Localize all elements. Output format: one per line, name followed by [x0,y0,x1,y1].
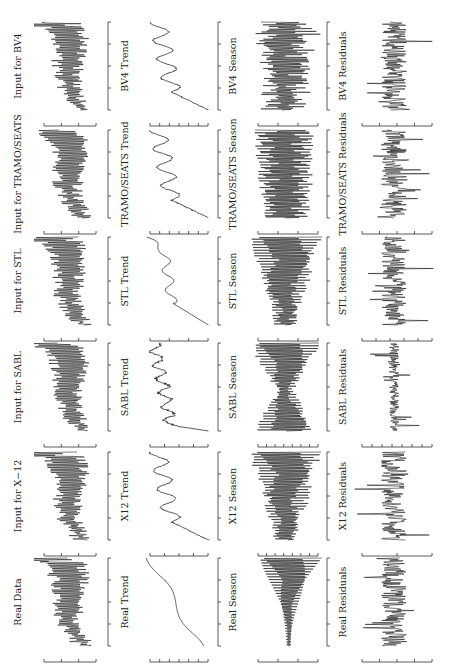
panel-input-for-tramo-seats: Input for TRAMO/SEATS [12,114,112,234]
series-line [370,343,419,431]
series-line [34,343,89,431]
panel-title: SABL Trend [119,358,130,416]
series-line [261,558,322,646]
panel-stl-season: STL Season [227,237,331,341]
panel-x12-season: X12 Season [227,452,331,556]
value-axis [258,231,318,234]
panel-title: STL Residuals [337,247,348,316]
panel-real-season: Real Season [227,558,331,662]
series-line [149,130,208,218]
panel-grid: Input for BV4BV4 TrendBV4 SeasonBV4 Resi… [12,22,434,662]
series-line [355,452,430,540]
panel-input-for-x-12: Input for X−12 [12,452,112,556]
panel-title: Real Data [12,578,23,626]
panel-title: X12 Trend [119,471,130,522]
decomposition-figure: Input for BV4BV4 TrendBV4 SeasonBV4 Resi… [0,0,450,666]
series-line [256,343,320,431]
panel-title: X12 Residuals [337,462,348,530]
panel-title: STL Season [227,253,238,310]
time-axis [327,237,330,325]
value-axis [362,338,432,341]
panel-title: BV4 Trend [119,40,130,92]
value-axis [44,123,96,126]
time-axis [218,130,221,218]
time-axis [218,343,221,431]
panel-bv4-trend: BV4 Trend [119,22,222,126]
time-axis [108,237,111,325]
value-axis [258,553,318,556]
panel-real-data: Real Data [12,558,112,662]
series-line [373,130,429,218]
value-axis [150,659,208,662]
value-axis [362,123,432,126]
panel-x12-trend: X12 Trend [119,452,222,556]
series-line [34,22,89,110]
panel-title: SABL Residuals [337,349,348,425]
time-axis [327,22,330,110]
value-axis [258,444,318,447]
value-axis [44,444,96,447]
value-axis [258,659,318,662]
value-axis [150,338,208,341]
panel-title: TRAMO/SEATS Trend [119,121,130,226]
panel-real-residuals: Real Residuals [337,558,433,662]
panel-title: BV4 Season [227,37,238,94]
time-axis [218,452,221,540]
panel-title: Input for BV4 [12,33,23,99]
panel-real-trend: Real Trend [119,558,222,662]
value-axis [362,444,432,447]
time-axis [108,22,111,110]
time-axis [327,558,330,646]
value-axis [150,123,208,126]
time-axis [108,558,111,646]
time-axis [327,452,330,540]
value-axis [362,659,432,662]
panel-tramo-seats-residuals: TRAMO/SEATS Residuals [337,112,433,235]
value-axis [258,338,318,341]
value-axis [44,659,96,662]
value-axis [44,553,96,556]
time-axis [108,130,111,218]
panel-title: Input for TRAMO/SEATS [12,114,23,233]
panel-stl-residuals: STL Residuals [337,237,434,341]
value-axis [362,231,432,234]
panel-title: Real Season [227,572,238,631]
series-line [34,558,91,646]
value-axis [150,444,208,447]
time-axis [327,343,330,431]
panel-sabl-residuals: SABL Residuals [337,343,433,447]
series-line [146,558,204,646]
panel-bv4-season: BV4 Season [227,22,331,126]
value-axis [362,553,432,556]
value-axis [44,338,96,341]
series-line [363,558,414,646]
time-axis [218,22,221,110]
panel-tramo-seats-trend: TRAMO/SEATS Trend [119,121,222,234]
series-line [252,452,321,540]
panel-sabl-trend: SABL Trend [119,343,222,447]
value-axis [150,231,208,234]
series-line [368,237,433,325]
series-line [150,22,208,110]
series-line [34,452,89,540]
panel-title: Real Trend [119,575,130,628]
series-line [39,130,91,218]
series-line [149,452,209,540]
time-axis [108,343,111,431]
panel-input-for-stl: Input for STL [12,237,112,341]
panel-x12-residuals: X12 Residuals [337,452,433,556]
panel-sabl-season: SABL Season [227,343,331,447]
series-line [367,22,432,110]
panel-title: Input for STL [12,248,23,314]
panel-title: TRAMO/SEATS Season [227,118,238,229]
value-axis [44,231,96,234]
value-axis [258,123,318,126]
time-axis [218,558,221,646]
time-axis [108,452,111,540]
value-axis [150,553,208,556]
series-line [256,22,321,110]
series-line [252,237,322,325]
time-axis [218,237,221,325]
panel-title: Real Residuals [337,566,348,637]
panel-bv4-residuals: BV4 Residuals [337,22,433,126]
